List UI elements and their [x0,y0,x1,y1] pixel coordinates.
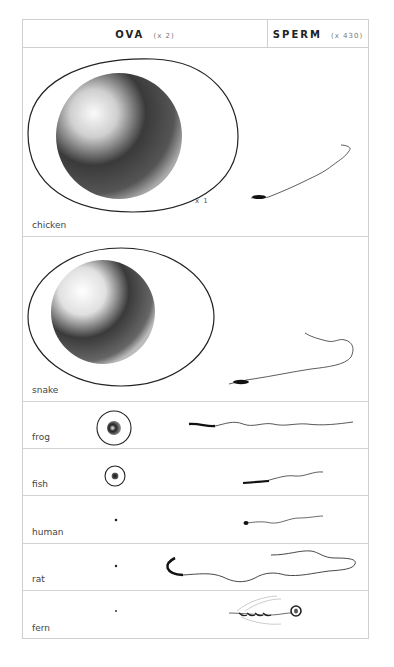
sperm-title: SPERM [273,29,322,40]
row-label: chicken [32,220,66,230]
row-label: frog [32,432,50,442]
row-fish: fish [23,449,368,496]
human-ovum [115,519,118,522]
row-chicken: x 1 chicken [23,47,368,237]
row-label: snake [32,385,58,395]
row-human: human [23,496,368,544]
fish-illustration [23,449,368,496]
chicken-yolk [56,73,182,199]
rat-sperm [167,551,355,582]
snake-yolk [51,260,155,364]
rat-illustration [23,544,368,591]
table-header: OVA (x 2) SPERM (x 430) [23,20,368,48]
ova-column-header: OVA (x 2) [23,20,268,47]
fern-illustration [23,591,368,639]
ova-scale: (x 2) [153,32,174,40]
row-label: fish [32,479,48,489]
row-snake: snake [23,237,368,402]
fish-ovum [112,473,119,480]
row-label: rat [32,574,45,584]
human-illustration [23,496,368,544]
fern-sperm [229,596,301,624]
sperm-scale: (x 430) [331,32,363,40]
ova-title: OVA [115,29,144,40]
fern-ovum [115,610,117,612]
frog-ovum [107,421,121,435]
snake-illustration [23,237,368,402]
snake-sperm [229,333,353,384]
chicken-sperm [251,145,350,198]
row-label: fern [32,623,50,633]
frog-illustration [23,402,368,449]
row-rat: rat [23,544,368,591]
human-sperm [246,516,323,523]
chicken-illustration [23,47,368,237]
row-fern: fern [23,591,368,639]
sperm-column-header: SPERM (x 430) [268,20,368,47]
comparison-table: OVA (x 2) SPERM (x 430) x 1 [22,19,369,639]
rat-ovum [115,565,117,567]
row-frog: frog [23,402,368,449]
row-label: human [32,527,63,537]
magnification-note: x 1 [195,197,209,205]
